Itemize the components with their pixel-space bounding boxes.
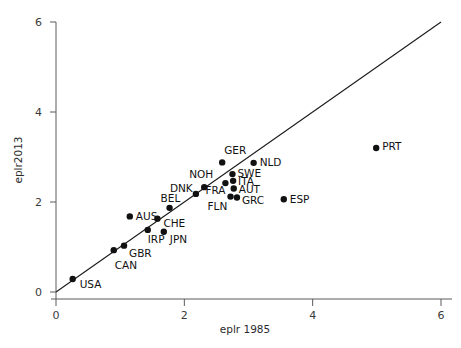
point-label: IRP <box>148 233 165 245</box>
point-marker[interactable] <box>250 160 256 166</box>
chart-canvas: 0246 0246 USACANGBRAUSIRPCHEJPNBELDNKNOH… <box>0 0 461 348</box>
point-marker[interactable] <box>154 215 160 221</box>
point-label: NLD <box>260 156 282 168</box>
point-label: CAN <box>115 259 137 271</box>
scatter-plot-figure: 0246 0246 USACANGBRAUSIRPCHEJPNBELDNKNOH… <box>0 0 461 348</box>
point-marker[interactable] <box>234 194 240 200</box>
point-marker[interactable] <box>229 171 235 177</box>
point-marker[interactable] <box>230 178 236 184</box>
x-tick-label: 0 <box>53 309 60 322</box>
x-tick-label: 4 <box>309 309 316 322</box>
point-marker[interactable] <box>227 193 233 199</box>
point-label: USA <box>80 278 103 290</box>
x-tick-label: 2 <box>181 309 188 322</box>
point-marker[interactable] <box>127 213 133 219</box>
point-label: GBR <box>129 247 152 259</box>
point-label: FRA <box>205 184 226 196</box>
point-marker[interactable] <box>166 205 172 211</box>
point-label: AUS <box>136 210 158 222</box>
point-marker[interactable] <box>69 276 75 282</box>
point-marker[interactable] <box>121 242 127 248</box>
point-label: FLN <box>208 200 228 212</box>
point-label: ESP <box>290 193 310 205</box>
y-tick-label: 4 <box>35 106 42 119</box>
point-label: GER <box>224 144 246 156</box>
x-tick-label: 6 <box>438 309 445 322</box>
y-tick-label: 2 <box>35 196 42 209</box>
point-label: GRC <box>242 194 264 206</box>
y-tick-label: 0 <box>35 286 42 299</box>
y-axis-title: eplr2013 <box>12 136 24 183</box>
point-label: PRT <box>382 140 402 152</box>
point-marker[interactable] <box>231 185 237 191</box>
point-marker[interactable] <box>219 159 225 165</box>
point-marker[interactable] <box>111 247 117 253</box>
y-tick-label: 6 <box>35 16 42 29</box>
point-marker[interactable] <box>193 191 199 197</box>
x-axis-title: eplr 1985 <box>220 323 270 335</box>
point-marker[interactable] <box>161 229 167 235</box>
point-label: JPN <box>169 233 187 245</box>
point-marker[interactable] <box>281 196 287 202</box>
point-marker[interactable] <box>373 145 379 151</box>
point-label: DNK <box>170 182 194 194</box>
point-label: CHE <box>163 217 185 229</box>
point-label: NOH <box>189 168 213 180</box>
